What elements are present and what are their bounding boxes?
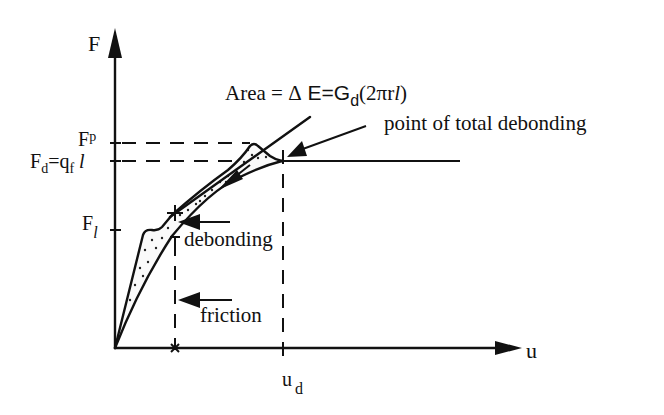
- total-debonding-arrow-icon: [287, 141, 307, 157]
- total-debonding-label: point of total debonding: [384, 111, 587, 135]
- tick-fd: Fd=qf l: [30, 150, 121, 176]
- y-axis-label: F: [88, 31, 100, 56]
- x-axis-label: u: [526, 338, 537, 363]
- svg-text:Fd=qf l: Fd=qf l: [30, 150, 85, 176]
- ud-label: ud: [282, 368, 303, 397]
- y-axis: F: [88, 28, 122, 348]
- friction-arrow-icon: [178, 292, 200, 308]
- total-debonding-arrow: [287, 126, 366, 157]
- friction-label: friction: [200, 303, 262, 327]
- pullout-diagram: F u Fp Fd=qf l Fl: [0, 0, 664, 415]
- svg-text:Fp: Fp: [78, 128, 96, 150]
- tangent-line: [170, 117, 310, 217]
- fl-label: F: [82, 212, 93, 234]
- svg-text:Fl: Fl: [82, 212, 98, 241]
- y-axis-arrow-icon: [108, 28, 122, 58]
- fd-label: F: [30, 150, 41, 172]
- x-axis-arrow-icon: [495, 341, 522, 355]
- area-formula: Area = Δ E=Gd(2πrl): [225, 81, 407, 109]
- debonding-label: debonding: [184, 227, 273, 251]
- fp-label: F: [78, 128, 89, 150]
- fp-sub: p: [89, 129, 96, 144]
